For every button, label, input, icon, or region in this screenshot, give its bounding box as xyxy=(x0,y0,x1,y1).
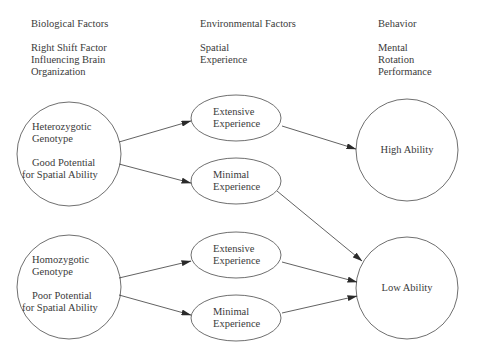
node-homozygotic: Homozygotic Genotype Poor Potential for … xyxy=(17,235,121,339)
node-text: High Ability xyxy=(381,144,435,155)
node-text: Homozygotic xyxy=(32,254,89,265)
node-text: Experience xyxy=(213,118,261,129)
arrow-hetero-to-minimal xyxy=(119,164,191,183)
node-text: Genotype xyxy=(32,133,73,144)
node-extensive-experience-top: Extensive Experience xyxy=(191,95,281,141)
arrow-extensive-bottom-to-low xyxy=(282,262,357,282)
arrow-minimal-to-low xyxy=(277,191,362,261)
node-text: Genotype xyxy=(32,266,73,277)
node-text: Minimal xyxy=(213,306,249,317)
node-text: Low Ability xyxy=(381,282,433,293)
node-text: for Spatial Ability xyxy=(22,169,99,180)
node-text: Heterozygotic xyxy=(32,121,92,132)
node-low-ability: Low Ability xyxy=(356,237,458,339)
node-minimal-experience-bottom: Minimal Experience xyxy=(191,295,281,341)
node-text: Extensive xyxy=(213,106,255,117)
node-heterozygotic: Heterozygotic Genotype Good Potential fo… xyxy=(17,102,121,206)
node-text: Experience xyxy=(213,181,261,192)
arrow-extensive-to-high xyxy=(282,126,356,149)
node-text: Extensive xyxy=(213,243,255,254)
arrow-hetero-to-extensive xyxy=(119,121,191,142)
node-text: Good Potential xyxy=(32,157,95,168)
arrow-homo-to-minimal xyxy=(119,295,191,315)
node-text: Experience xyxy=(213,318,261,329)
node-high-ability: High Ability xyxy=(356,99,458,201)
node-text: Experience xyxy=(213,255,261,266)
diagram-canvas: Heterozygotic Genotype Good Potential fo… xyxy=(0,0,477,358)
node-minimal-experience-top: Minimal Experience xyxy=(191,158,281,204)
arrow-minimal-bottom-to-low xyxy=(282,296,357,313)
node-text: for Spatial Ability xyxy=(22,302,99,313)
node-text: Poor Potential xyxy=(32,290,92,301)
node-text: Minimal xyxy=(213,169,249,180)
arrow-homo-to-extensive xyxy=(119,261,191,278)
node-extensive-experience-bottom: Extensive Experience xyxy=(191,232,281,278)
